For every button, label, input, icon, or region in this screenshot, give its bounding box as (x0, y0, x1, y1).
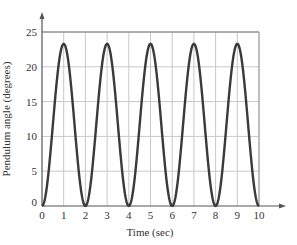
y-tick-label: 5 (32, 165, 38, 177)
x-tick-label: 7 (191, 209, 197, 221)
x-tick-label: 6 (169, 209, 175, 221)
y-tick-label: 20 (26, 61, 38, 73)
x-tick-label: 9 (235, 209, 241, 221)
y-tick-label: 15 (26, 96, 38, 108)
x-tick-label: 2 (83, 209, 89, 221)
y-tick-label: 10 (26, 130, 38, 142)
x-tick-label: 5 (148, 209, 154, 221)
x-tick-label: 10 (254, 209, 266, 221)
x-tick-label: 1 (61, 209, 67, 221)
y-tick-label: 25 (26, 26, 38, 38)
x-tick-label: 3 (104, 209, 110, 221)
x-tick-label: 8 (213, 209, 219, 221)
x-axis-label: Time (sec) (127, 226, 174, 239)
axes (40, 12, 287, 209)
chart: 012345678910 0510152025 Time (sec) Pendu… (0, 0, 297, 245)
x-tick-label: 4 (126, 209, 132, 221)
x-tick-labels: 012345678910 (39, 209, 265, 221)
y-tick-labels: 0510152025 (26, 26, 38, 208)
y-tick-label: 0 (32, 196, 38, 208)
y-axis-label: Pendulum angle (degrees) (0, 61, 13, 176)
x-tick-label: 0 (39, 209, 45, 221)
